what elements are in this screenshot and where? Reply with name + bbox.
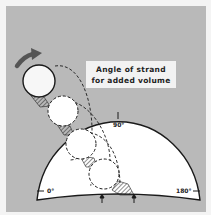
strand-circle-4 xyxy=(89,159,119,189)
strand-circle-2 xyxy=(48,96,78,126)
strand-circle-3 xyxy=(66,129,96,159)
strand-angle-diagram xyxy=(0,0,211,215)
angle-label-180: 180° xyxy=(176,187,192,194)
caption-box: Angle of strand for added volume xyxy=(86,61,176,88)
strand-circle-1 xyxy=(23,65,55,97)
angle-label-90: 90° xyxy=(113,121,124,128)
caption-line-1: Angle of strand xyxy=(86,64,176,75)
curved-arrow-icon xyxy=(17,48,42,66)
angle-label-0: 0° xyxy=(47,187,54,194)
caption-line-2: for added volume xyxy=(86,75,176,86)
base-arrow-icons xyxy=(100,194,136,203)
